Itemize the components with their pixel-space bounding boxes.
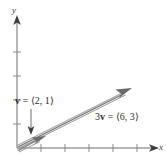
label-v-leader [28,109,35,135]
vector-diagram: y x v = ⟨2, 1⟩ 3v = ⟨6, 3⟩ [0,0,166,159]
vector-v-equals: = [20,95,31,106]
vector-v-components: ⟨2, 1⟩ [31,95,54,106]
x-axis-label: x [159,143,163,152]
vector-3v-equals: = [105,111,116,122]
vector-3v-components: ⟨6, 3⟩ [116,111,139,122]
y-axis-label: y [12,6,16,15]
vector-v-label: v = ⟨2, 1⟩ [15,96,54,106]
diagram-canvas [0,0,166,159]
vector-3v-label: 3v = ⟨6, 3⟩ [95,112,139,122]
axes-group [13,15,159,152]
